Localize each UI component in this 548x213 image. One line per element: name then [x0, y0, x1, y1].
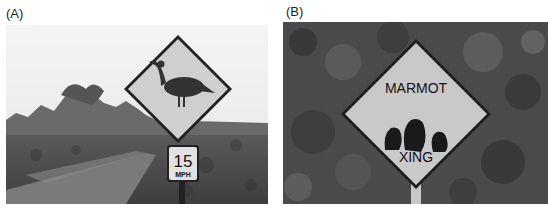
panel-label-b: (B)	[286, 4, 303, 19]
speed-limit-plate: 15 MPH	[167, 145, 199, 182]
photo-marmot-sign: MARMOT XING	[283, 22, 548, 204]
photo-goose-sign: 15 MPH	[6, 25, 268, 204]
svg-text:15: 15	[174, 152, 193, 171]
svg-text:XING: XING	[399, 149, 433, 165]
panel-label-a: (A)	[6, 6, 23, 21]
svg-text:MARMOT: MARMOT	[385, 80, 448, 96]
svg-text:MPH: MPH	[175, 171, 191, 178]
